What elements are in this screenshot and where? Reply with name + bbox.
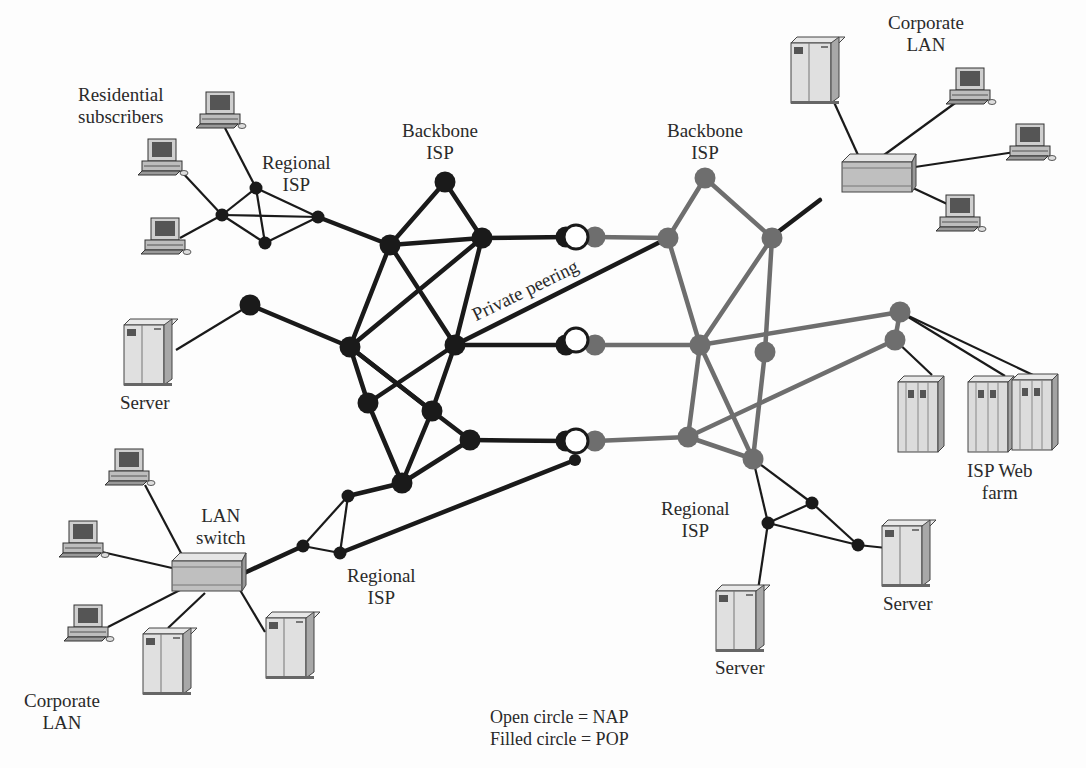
- web-farm-rack-3: [1012, 374, 1058, 450]
- internet-topology-diagram: Private peering Residential subscribers …: [0, 0, 1086, 768]
- label-line: switch: [196, 527, 246, 549]
- label-server-bottom-middle: Server: [715, 657, 765, 679]
- label-line: ISP Web: [967, 460, 1033, 482]
- label-residential-subscribers: Residential subscribers: [78, 84, 163, 128]
- lan-server-1: [143, 628, 197, 695]
- label-line: Corporate: [888, 12, 964, 34]
- label-server-bottom-right: Server: [883, 593, 933, 615]
- legend-pop: Filled circle = POP: [490, 728, 629, 750]
- label-line: Regional: [262, 152, 331, 174]
- label-line: LAN: [888, 34, 964, 56]
- label-regional-isp-bottom-right: Regional ISP: [661, 498, 730, 542]
- label-backbone-isp-left: Backbone ISP: [402, 120, 478, 164]
- left-backbone-links: [242, 182, 820, 574]
- label-line: Corporate: [24, 690, 100, 712]
- corporate-pc-top-2: [1006, 124, 1056, 161]
- label-regional-isp-top-left: Regional ISP: [262, 152, 331, 196]
- server-left: [124, 319, 178, 386]
- label-line: ISP: [661, 520, 730, 542]
- label-line: Residential: [78, 84, 163, 106]
- label-corporate-lan-top: Corporate LAN: [888, 12, 964, 56]
- label-line: Regional: [661, 498, 730, 520]
- label-line: ISP: [262, 174, 331, 196]
- web-farm-rack-1: [898, 376, 944, 452]
- lan-switch: [172, 553, 246, 591]
- label-corporate-lan-bottom: Corporate LAN: [24, 690, 100, 734]
- label-regional-isp-bottom-left: Regional ISP: [347, 565, 416, 609]
- label-isp-web-farm: ISP Web farm: [967, 460, 1033, 504]
- label-line: Backbone: [402, 120, 478, 142]
- right-backbone-links: [595, 178, 900, 459]
- corporate-pc-top-1: [946, 68, 996, 105]
- label-line: ISP: [347, 587, 416, 609]
- label-line: farm: [967, 482, 1033, 504]
- web-farm-rack-2: [968, 376, 1014, 452]
- corporate-switch-top: [842, 154, 916, 192]
- label-line: Server: [715, 657, 765, 679]
- pop-nodes-left: [216, 172, 582, 560]
- label-line: Backbone: [667, 120, 743, 142]
- label-line: LAN: [196, 505, 246, 527]
- server-bottom-right: [882, 520, 936, 587]
- label-line: Regional: [347, 565, 416, 587]
- lan-server-2: [266, 612, 320, 679]
- lan-pc-3: [64, 605, 114, 642]
- corporate-pc-top-3: [936, 195, 986, 232]
- legend-nap: Open circle = NAP: [490, 706, 629, 728]
- legend: Open circle = NAP Filled circle = POP: [490, 706, 629, 750]
- residential-pc-2: [138, 139, 188, 176]
- lan-pc-1: [105, 449, 155, 486]
- label-line: subscribers: [78, 106, 163, 128]
- lan-pc-2: [59, 521, 109, 558]
- label-line: Server: [883, 593, 933, 615]
- label-line: ISP: [402, 142, 478, 164]
- label-line: LAN: [24, 712, 100, 734]
- server-bottom-middle: [716, 585, 770, 652]
- label-lan-switch: LAN switch: [196, 505, 246, 549]
- label-server-left: Server: [120, 392, 170, 414]
- label-backbone-isp-right: Backbone ISP: [667, 120, 743, 164]
- label-line: Server: [120, 392, 170, 414]
- corporate-server-top: [791, 37, 845, 104]
- label-line: ISP: [667, 142, 743, 164]
- residential-pc-1: [196, 92, 246, 129]
